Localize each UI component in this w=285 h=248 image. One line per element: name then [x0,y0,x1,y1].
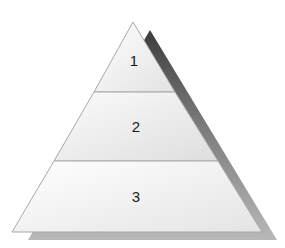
level-2-label: 2 [132,118,140,135]
level-3-label: 3 [132,188,140,205]
level-1-label: 1 [130,52,138,69]
pyramid-diagram: 1 2 3 [0,0,285,248]
pyramid-level-3: 3 [12,161,262,232]
